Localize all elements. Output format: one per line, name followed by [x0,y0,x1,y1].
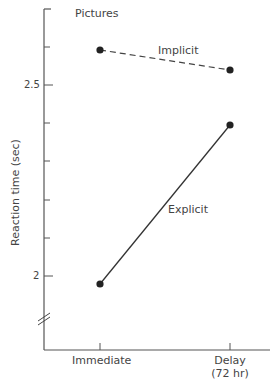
series-label-implicit: Implicit [158,44,198,57]
data-point [226,121,233,128]
xtick-label-delay: Delay [205,354,255,367]
ytick-label: 2.5 [24,79,40,90]
data-point [96,46,103,53]
y-ticks [44,47,53,276]
xtick-label-immediate: Immediate [72,354,130,367]
ytick-label: 2 [33,270,39,281]
y-axis-label: Reaction time (sec) [9,133,22,253]
xtick-label-delay-sub: (72 hr) [205,367,255,380]
series-explicit-line [100,125,230,284]
chart-title: Pictures [75,7,119,20]
data-point [96,280,103,287]
series-label-explicit: Explicit [168,203,208,216]
data-point [226,66,233,73]
chart-canvas [0,0,278,385]
